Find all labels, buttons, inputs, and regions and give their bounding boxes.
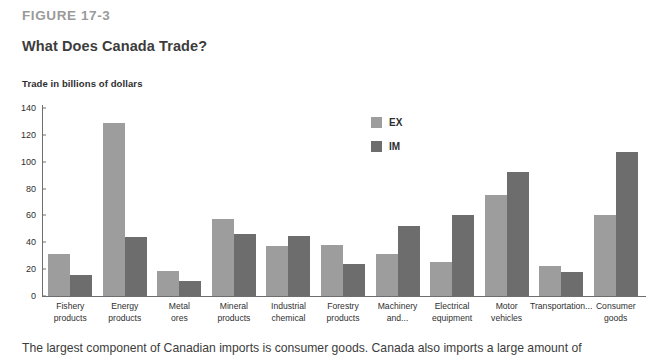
bar-import <box>343 264 365 296</box>
x-tick-label: Consumer goods <box>580 301 651 324</box>
y-tick-label: 140 <box>21 103 36 113</box>
bar-chart: 020406080100120140 Fishery productsEnerg… <box>0 95 652 335</box>
bar-group <box>321 108 365 296</box>
y-tick-mark <box>42 215 46 216</box>
bar-import <box>616 152 638 296</box>
bar-group <box>157 108 201 296</box>
bar-import <box>179 281 201 296</box>
bar-export <box>539 266 561 296</box>
bar-import <box>398 226 420 296</box>
plot-area <box>43 108 643 296</box>
chart-legend: EX IM <box>371 117 402 165</box>
y-tick-mark <box>42 269 46 270</box>
bar-group <box>485 108 529 296</box>
bar-group <box>430 108 474 296</box>
bar-group <box>212 108 256 296</box>
bar-export <box>266 246 288 296</box>
bar-export <box>430 262 452 296</box>
bar-group <box>594 108 638 296</box>
y-axis-ticks: 020406080100120140 <box>0 108 36 296</box>
y-tick-label: 20 <box>26 264 36 274</box>
y-tick-mark <box>42 108 46 109</box>
legend-item-im: IM <box>371 141 402 152</box>
y-tick-label: 60 <box>26 210 36 220</box>
x-axis-line <box>42 296 646 297</box>
bar-import <box>288 236 310 296</box>
bar-export <box>103 123 125 296</box>
bar-import <box>452 215 474 296</box>
bar-import <box>70 275 92 296</box>
y-tick-label: 80 <box>26 184 36 194</box>
figure-caption: The largest component of Canadian import… <box>22 340 638 356</box>
bar-export <box>321 245 343 296</box>
y-tick-label: 40 <box>26 237 36 247</box>
y-tick-label: 0 <box>31 291 36 301</box>
bar-import <box>125 237 147 296</box>
bar-export <box>376 254 398 296</box>
y-tick-mark <box>42 188 46 189</box>
y-tick-label: 100 <box>21 157 36 167</box>
y-axis-caption: Trade in billions of dollars <box>22 78 143 89</box>
legend-swatch-im <box>371 141 382 152</box>
bar-group <box>539 108 583 296</box>
y-tick-mark <box>42 134 46 135</box>
legend-swatch-ex <box>371 117 382 128</box>
figure-label: FIGURE 17-3 <box>22 8 110 23</box>
bar-export <box>157 271 179 297</box>
bar-import <box>234 234 256 296</box>
bar-export <box>485 195 507 296</box>
bar-export <box>212 219 234 296</box>
bar-group <box>266 108 310 296</box>
page-title: What Does Canada Trade? <box>22 38 207 54</box>
bar-import <box>507 172 529 296</box>
y-tick-mark <box>42 296 46 297</box>
bar-import <box>561 272 583 296</box>
y-tick-mark <box>42 161 46 162</box>
y-tick-mark <box>42 242 46 243</box>
legend-item-ex: EX <box>371 117 402 128</box>
legend-label-ex: EX <box>389 117 402 128</box>
bar-group <box>103 108 147 296</box>
y-tick-label: 120 <box>21 130 36 140</box>
bar-group <box>48 108 92 296</box>
legend-label-im: IM <box>389 141 400 152</box>
bar-export <box>594 215 616 296</box>
bar-export <box>48 254 70 296</box>
